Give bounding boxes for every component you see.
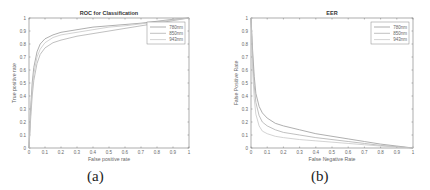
x-tick-label: 0.1: [42, 150, 49, 155]
x-tick-label: 0.6: [122, 150, 129, 155]
caption-b: (b): [311, 168, 329, 185]
y-tick-label: 0.8: [20, 42, 27, 47]
legend-label: 850nm: [393, 31, 407, 36]
x-tick-label: 1: [412, 150, 415, 155]
legend-label: 943nm: [393, 37, 407, 42]
y-tick-label: 0.4: [242, 94, 249, 99]
y-tick-label: 1: [245, 16, 248, 21]
legend-label: 850nm: [169, 31, 183, 36]
chart-panel-b: EER00.10.20.30.40.50.60.70.80.9100.10.20…: [215, 0, 430, 190]
legend-label: 780nm: [393, 25, 407, 30]
x-tick-label: 0: [28, 150, 31, 155]
eer-chart: EER00.10.20.30.40.50.60.70.80.9100.10.20…: [215, 0, 430, 190]
x-axis-label: False positive rate: [88, 156, 130, 162]
legend-label: 780nm: [169, 25, 183, 30]
y-tick-label: 0.9: [242, 29, 249, 34]
legend: 780nm850nm943nm: [371, 22, 409, 44]
x-tick-label: 0.3: [296, 150, 303, 155]
y-tick-label: 0.4: [20, 94, 27, 99]
legend: 780nm850nm943nm: [147, 22, 185, 44]
x-tick-label: 0.6: [345, 150, 352, 155]
x-tick-label: 0.4: [90, 150, 97, 155]
y-tick-label: 0.2: [242, 120, 249, 125]
y-tick-label: 0: [245, 146, 248, 151]
x-tick-label: 0.7: [361, 150, 368, 155]
y-tick-label: 0.1: [20, 133, 27, 138]
x-tick-label: 0.9: [170, 150, 177, 155]
y-tick-label: 0.7: [242, 55, 249, 60]
chart-title: ROC for Classification: [80, 10, 139, 16]
chart-panel-a: ROC for Classification00.10.20.30.40.50.…: [0, 0, 215, 190]
y-tick-label: 0.6: [242, 68, 249, 73]
y-tick-label: 0.7: [20, 55, 27, 60]
y-tick-label: 0.3: [20, 107, 27, 112]
x-tick-label: 0.2: [280, 150, 287, 155]
y-tick-label: 1: [23, 16, 26, 21]
y-tick-label: 0.2: [20, 120, 27, 125]
roc-chart: ROC for Classification00.10.20.30.40.50.…: [0, 0, 215, 190]
x-tick-label: 0.5: [106, 150, 113, 155]
chart-title: EER: [326, 10, 337, 16]
x-tick-label: 0.3: [74, 150, 81, 155]
y-axis-label: False Positive Rate: [233, 61, 239, 106]
x-tick-label: 0.8: [154, 150, 161, 155]
y-tick-label: 0.6: [20, 68, 27, 73]
x-tick-label: 0.9: [394, 150, 401, 155]
y-tick-label: 0.9: [20, 29, 27, 34]
y-tick-label: 0.5: [242, 81, 249, 86]
x-tick-label: 0.8: [377, 150, 384, 155]
legend-label: 943nm: [169, 37, 183, 42]
y-axis-label: True positive rate: [11, 63, 17, 103]
x-tick-label: 0.2: [58, 150, 65, 155]
y-tick-label: 0: [23, 146, 26, 151]
y-tick-label: 0.8: [242, 42, 249, 47]
y-tick-label: 0.1: [242, 133, 249, 138]
x-tick-label: 0.7: [138, 150, 145, 155]
x-tick-label: 1: [188, 150, 191, 155]
caption-a: (a): [87, 168, 104, 185]
x-tick-label: 0: [250, 150, 253, 155]
x-tick-label: 0.1: [264, 150, 271, 155]
x-tick-label: 0.5: [329, 150, 336, 155]
x-tick-label: 0.4: [313, 150, 320, 155]
x-axis-label: False Negative Rate: [309, 156, 356, 162]
y-tick-label: 0.5: [20, 81, 27, 86]
y-tick-label: 0.3: [242, 107, 249, 112]
